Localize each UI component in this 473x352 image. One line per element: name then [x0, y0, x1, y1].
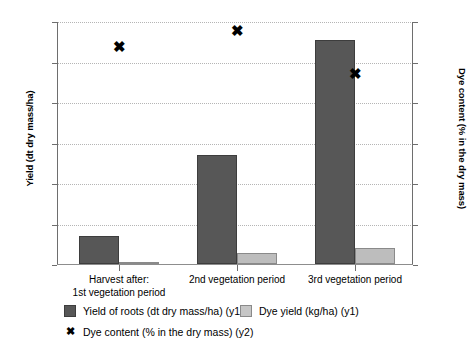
gridline	[57, 103, 413, 104]
y2-tick	[413, 265, 418, 266]
y1-tick	[52, 144, 57, 145]
gridline	[57, 63, 413, 64]
y1-tick	[52, 103, 57, 104]
y1-tick	[52, 265, 57, 266]
y2-tick	[413, 225, 418, 226]
y2-tick	[413, 63, 418, 64]
legend-label: Dye content (% in the dry mass) (y2)	[83, 326, 253, 338]
legend-x-marker-icon: ✖	[64, 325, 76, 338]
y1-tick	[52, 225, 57, 226]
x-category-tick	[355, 265, 356, 271]
y1-tick	[52, 63, 57, 64]
x-axis-line	[57, 264, 413, 265]
dye-content-marker-icon: ✖	[231, 23, 244, 38]
y1-tick	[52, 22, 57, 23]
x-category-label: 3rd vegetation period	[275, 274, 435, 287]
legend-swatch-light-icon	[240, 305, 252, 317]
dye-content-marker-icon: ✖	[349, 66, 362, 81]
legend-label: Dye yield (kg/ha) (y1)	[259, 305, 359, 317]
y2-tick	[413, 22, 418, 23]
legend-swatch-dark-icon	[64, 305, 76, 317]
plot-area: 30 25 20 15 10 5 0 9 7,5 6 4,5 3 1,5 0 ✖…	[57, 22, 413, 265]
y2-tick	[413, 184, 418, 185]
y1-axis-title: Yield (dt dry mass/ha)	[24, 49, 35, 229]
y2-tick	[413, 144, 418, 145]
y1-axis-line	[57, 22, 58, 265]
legend-label: Yield of roots (dt dry mass/ha) (y1)	[83, 305, 244, 317]
legend-item-dye-yield: Dye yield (kg/ha) (y1)	[240, 305, 359, 317]
bar-dye-yield	[119, 262, 159, 264]
y1-tick	[52, 184, 57, 185]
bar-dye-yield	[355, 248, 395, 264]
legend-item-yield-of-roots: Yield of roots (dt dry mass/ha) (y1)	[64, 305, 244, 317]
bar-yield-of-roots	[197, 155, 237, 264]
x-category-tick	[119, 265, 120, 271]
dye-content-marker-icon: ✖	[113, 39, 126, 54]
x-category-tick	[237, 265, 238, 271]
bar-dye-yield	[237, 253, 277, 264]
gridline	[57, 144, 413, 145]
bar-yield-of-roots	[79, 236, 119, 264]
y2-tick	[413, 103, 418, 104]
legend-item-dye-content: ✖ Dye content (% in the dry mass) (y2)	[64, 325, 253, 338]
chart-figure: Yield (dt dry mass/ha) Dye content (% in…	[0, 0, 473, 352]
y2-axis-title: Dye content (% in the dry mass)	[457, 49, 468, 229]
